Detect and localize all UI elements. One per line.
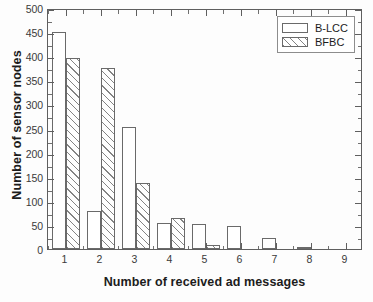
x-tick-minor: [223, 246, 224, 250]
x-tick-label: 3: [132, 253, 138, 265]
y-tick-minor: [358, 118, 362, 119]
y-tick-major: [355, 179, 361, 180]
x-tick-label: 2: [97, 253, 103, 265]
y-tick-major: [48, 34, 54, 35]
legend-label-bfbc: BFBC: [315, 36, 344, 48]
x-tick-major: [136, 243, 137, 249]
bar-b-lcc-4: [157, 223, 171, 250]
plot-area: B-LCC BFBC: [47, 9, 362, 250]
bar-bfbc-4: [171, 218, 185, 249]
x-tick-minor: [188, 10, 189, 14]
x-tick-minor: [258, 10, 259, 14]
x-tick-minor: [48, 10, 49, 14]
x-tick-minor: [258, 246, 259, 250]
y-tick-major: [48, 227, 54, 228]
x-tick-minor: [293, 246, 294, 250]
x-tick-major: [206, 10, 207, 16]
y-tick-major: [48, 179, 54, 180]
y-tick-major: [48, 106, 54, 107]
chart-legend: B-LCC BFBC: [277, 16, 355, 53]
y-tick-minor: [358, 22, 362, 23]
bar-b-lcc-3: [122, 127, 136, 249]
x-tick-minor: [328, 10, 329, 14]
x-tick-minor: [83, 10, 84, 14]
y-axis-tick-labels: 050100150200250300350400450500: [0, 9, 43, 250]
x-axis-tick-labels: 123456789: [47, 253, 362, 269]
x-tick-major: [66, 243, 67, 249]
x-tick-label: 5: [202, 253, 208, 265]
x-tick-minor: [153, 246, 154, 250]
y-tick-minor: [358, 167, 362, 168]
y-tick-label: 250: [26, 124, 43, 136]
y-tick-minor: [48, 46, 52, 47]
y-tick-minor: [48, 143, 52, 144]
legend-label-b-lcc: B-LCC: [315, 22, 348, 34]
x-tick-minor: [118, 10, 119, 14]
x-tick-major: [311, 243, 312, 249]
x-tick-label: 1: [62, 253, 68, 265]
y-tick-major: [355, 58, 361, 59]
y-tick-label: 400: [26, 51, 43, 63]
x-tick-label: 6: [237, 253, 243, 265]
y-tick-major: [355, 227, 361, 228]
x-tick-major: [171, 10, 172, 16]
x-tick-label: 4: [167, 253, 173, 265]
y-tick-label: 200: [26, 148, 43, 160]
y-tick-major: [355, 34, 361, 35]
x-tick-label: 8: [307, 253, 313, 265]
y-tick-minor: [358, 70, 362, 71]
legend-swatch-hatched-icon: [282, 37, 308, 47]
y-tick-major: [48, 155, 54, 156]
x-tick-minor: [83, 246, 84, 250]
x-tick-major: [241, 243, 242, 249]
bar-bfbc-5: [206, 245, 220, 249]
x-tick-major: [276, 243, 277, 249]
y-tick-major: [48, 203, 54, 204]
y-tick-minor: [358, 94, 362, 95]
y-tick-minor: [48, 191, 52, 192]
x-tick-major: [136, 10, 137, 16]
y-tick-major: [355, 203, 361, 204]
x-tick-major: [206, 243, 207, 249]
x-tick-minor: [293, 10, 294, 14]
bar-b-lcc-8: [297, 247, 311, 249]
y-tick-major: [355, 10, 361, 11]
y-tick-minor: [48, 215, 52, 216]
x-tick-minor: [328, 246, 329, 250]
y-tick-minor: [358, 143, 362, 144]
x-tick-minor: [223, 10, 224, 14]
y-tick-major: [48, 131, 54, 132]
y-tick-major: [48, 58, 54, 59]
y-tick-major: [355, 82, 361, 83]
x-tick-major: [101, 243, 102, 249]
legend-item-b-lcc: B-LCC: [282, 21, 348, 34]
x-axis-title: Number of received ad messages: [47, 275, 362, 289]
y-tick-major: [355, 155, 361, 156]
bar-b-lcc-5: [192, 224, 206, 249]
y-tick-label: 0: [37, 244, 43, 256]
y-tick-minor: [48, 70, 52, 71]
y-tick-minor: [48, 239, 52, 240]
x-tick-minor: [188, 246, 189, 250]
y-tick-minor: [48, 94, 52, 95]
y-tick-major: [355, 131, 361, 132]
bar-bfbc-2: [101, 68, 115, 249]
legend-swatch-hollow-icon: [282, 23, 308, 33]
y-tick-minor: [48, 22, 52, 23]
bar-b-lcc-2: [87, 211, 101, 249]
bar-b-lcc-1: [52, 32, 66, 249]
y-tick-minor: [358, 46, 362, 47]
y-tick-minor: [358, 215, 362, 216]
y-tick-label: 50: [32, 220, 43, 232]
y-tick-label: 100: [26, 196, 43, 208]
y-tick-label: 150: [26, 172, 43, 184]
bar-b-lcc-7: [262, 238, 276, 249]
y-tick-minor: [358, 191, 362, 192]
y-tick-minor: [48, 118, 52, 119]
y-tick-major: [48, 82, 54, 83]
legend-item-bfbc: BFBC: [282, 35, 348, 48]
x-tick-major: [241, 10, 242, 16]
x-tick-minor: [48, 246, 49, 250]
y-tick-minor: [48, 167, 52, 168]
chart-figure: Number of sensor nodes 05010015020025030…: [0, 0, 373, 302]
